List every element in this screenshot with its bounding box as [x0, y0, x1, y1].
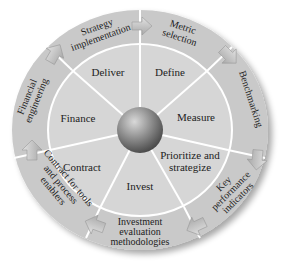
- sector-finance: Finance: [61, 112, 96, 124]
- sector-measure: Measure: [177, 111, 215, 123]
- cycle-diagram: Deliver Define Measure Prioritize and st…: [0, 0, 284, 264]
- sector-strategize: strategize: [169, 161, 211, 173]
- sector-invest: Invest: [127, 180, 154, 192]
- sector-prioritize: Prioritize and: [160, 149, 220, 161]
- sector-deliver: Deliver: [92, 66, 125, 78]
- center-sphere: [117, 107, 163, 153]
- step-investment-evaluation-3: methodologies: [111, 236, 170, 247]
- sector-define: Define: [155, 66, 185, 78]
